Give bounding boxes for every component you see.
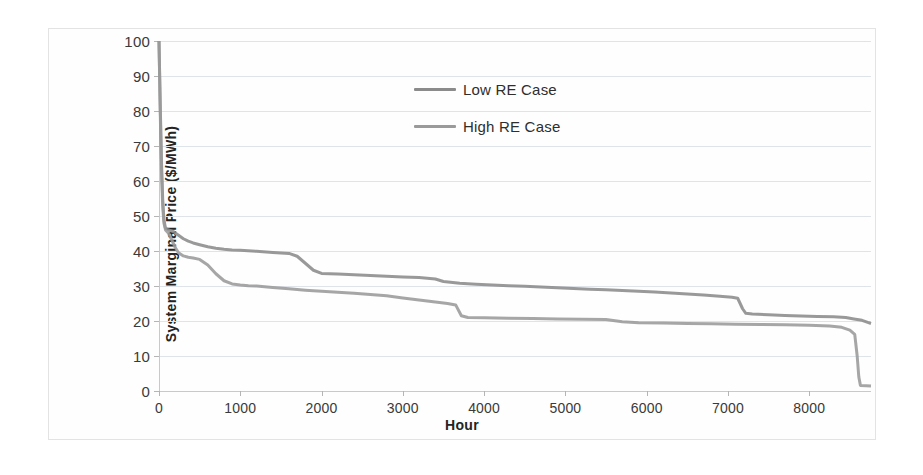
y-axis-tick-label: 70 [133, 138, 150, 155]
x-axis-tick-label: 3000 [387, 400, 419, 416]
x-axis-tick-label: 6000 [631, 400, 663, 416]
legend-item[interactable]: High RE Case [414, 118, 560, 135]
y-axis-tick-label: 10 [133, 348, 150, 365]
x-axis-tick-label: 0 [155, 400, 163, 416]
x-axis-tick-label: 5000 [549, 400, 581, 416]
y-axis-tick-label: 30 [133, 278, 150, 295]
x-axis-tick-label: 2000 [306, 400, 338, 416]
x-axis-tick-label: 4000 [468, 400, 500, 416]
x-axis-tick [484, 391, 485, 396]
x-axis-tick-label: 7000 [712, 400, 744, 416]
legend-swatch-icon [414, 125, 456, 128]
y-axis-tick-label: 0 [141, 383, 150, 400]
x-axis-tick [403, 391, 404, 396]
y-axis-tick-label: 100 [124, 33, 150, 50]
y-axis-tick-label: 80 [133, 103, 150, 120]
legend-label: High RE Case [463, 118, 560, 135]
legend-label: Low RE Case [463, 81, 557, 98]
y-axis-tick-label: 60 [133, 173, 150, 190]
y-axis-tick-label: 40 [133, 243, 150, 260]
x-axis-tick-label: 8000 [793, 400, 825, 416]
x-axis-tick [240, 391, 241, 396]
plot-area: 0102030405060708090100 01000200030004000… [159, 41, 871, 391]
x-axis-tick [159, 391, 160, 396]
x-axis-tick [565, 391, 566, 396]
gridline [159, 391, 871, 392]
x-axis-tick [728, 391, 729, 396]
x-axis-tick [647, 391, 648, 396]
y-axis-tick-label: 50 [133, 208, 150, 225]
x-axis-tick [322, 391, 323, 396]
legend-item[interactable]: Low RE Case [414, 81, 560, 98]
x-axis-title: Hour [49, 417, 875, 433]
legend-swatch-icon [414, 88, 456, 91]
y-axis-tick-label: 90 [133, 68, 150, 85]
chart-figure: System Marginal Price ($/MWh) Hour 01020… [48, 28, 876, 440]
x-axis-tick [809, 391, 810, 396]
y-axis-tick-label: 20 [133, 313, 150, 330]
x-axis-tick-label: 1000 [224, 400, 256, 416]
chart-legend: Low RE CaseHigh RE Case [414, 81, 560, 135]
